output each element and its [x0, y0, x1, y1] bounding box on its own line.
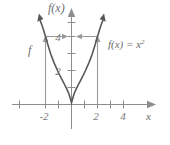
y-tick-label-4: 4	[55, 31, 61, 43]
horizontal-arrow-right-head	[76, 34, 82, 39]
left-curve-label: f	[28, 43, 33, 57]
y-tick-label-2: 2	[55, 65, 61, 77]
y-axis-arrowhead	[68, 8, 75, 17]
x-axis-label: x	[145, 110, 151, 122]
right-curve-label-exponent: 2	[141, 38, 145, 46]
graph-canvas: f(x) f f(x) = x2 x 4 2 -2 2 4	[0, 0, 170, 145]
y-axis-function-label: f(x)	[48, 1, 65, 15]
x-tick-label-minus-2: -2	[39, 110, 49, 122]
right-curve-label: f(x) = x2	[108, 38, 145, 51]
x-tick-label-2: 2	[93, 110, 99, 122]
x-tick-label-4: 4	[120, 110, 126, 122]
horizontal-arrow-left-head	[62, 34, 68, 39]
axes-group	[12, 8, 156, 129]
graph-figure: f(x) f f(x) = x2 x 4 2 -2 2 4	[0, 0, 170, 145]
right-curve-label-base: f(x) = x	[108, 38, 141, 51]
x-axis-arrowhead	[147, 101, 156, 108]
